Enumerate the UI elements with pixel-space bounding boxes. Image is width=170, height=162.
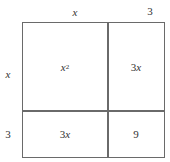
- cell-3x-top-var: x: [136, 61, 141, 73]
- cell-9-value: 9: [133, 128, 139, 140]
- cell-3x-top: 3x: [108, 23, 164, 110]
- cell-x-squared-base: x: [61, 61, 66, 73]
- side-label-3: 3: [1, 128, 15, 140]
- cell-9: 9: [108, 111, 164, 157]
- cell-x-squared: x2: [23, 23, 107, 110]
- top-label-3: 3: [143, 5, 157, 17]
- cell-3x-bottom: 3x: [23, 111, 107, 157]
- area-model-grid: x2 3x 3x 9: [22, 22, 165, 158]
- top-label-x: x: [68, 6, 82, 18]
- side-label-x: x: [1, 68, 15, 80]
- cell-3x-bottom-var: x: [65, 128, 70, 140]
